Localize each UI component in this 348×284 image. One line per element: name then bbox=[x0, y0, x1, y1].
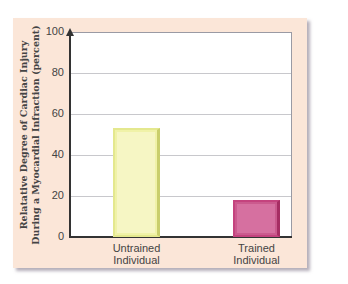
x-tick-label-line: Trained bbox=[212, 242, 302, 254]
x-tick-label-line: Individual bbox=[212, 254, 302, 266]
gridline bbox=[70, 114, 291, 115]
gridline bbox=[70, 73, 291, 74]
y-axis-arrow-icon bbox=[66, 28, 74, 36]
x-tick-label-line: Individual bbox=[92, 254, 182, 266]
gridline bbox=[70, 155, 291, 156]
x-tick-label-line: Untrained bbox=[92, 242, 182, 254]
x-tick-label: TrainedIndividual bbox=[212, 242, 302, 266]
y-axis-label: Relatative Degree of Cardiac Injury Duri… bbox=[18, 20, 42, 250]
y-axis-label-line-2: During a Myocardial Infraction (percent) bbox=[30, 20, 42, 250]
bar-untrained bbox=[113, 128, 160, 237]
y-axis-label-line-1: Relatative Degree of Cardiac Injury bbox=[18, 20, 30, 250]
x-tick-label: UntrainedIndividual bbox=[92, 242, 182, 266]
gridline bbox=[70, 196, 291, 197]
y-axis bbox=[69, 34, 71, 238]
bar-trained bbox=[233, 200, 280, 237]
